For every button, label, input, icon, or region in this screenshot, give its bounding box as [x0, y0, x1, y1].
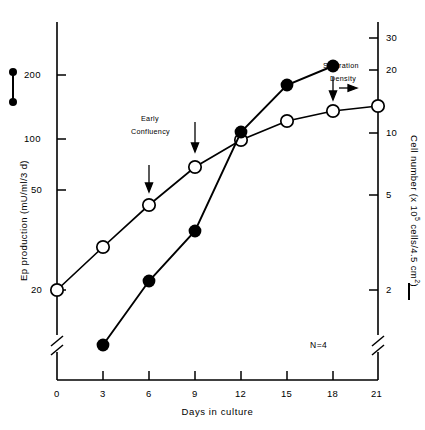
- early-confluency-arrow-day6-icon: [145, 165, 152, 192]
- early-confluency-label-line1: Early: [141, 113, 159, 124]
- series-cell-number: [51, 100, 384, 296]
- left-tick-label-50: 50: [31, 184, 42, 195]
- right-axis-title-suffix: ): [409, 283, 420, 287]
- legend-dot-top: [9, 68, 17, 76]
- right-axis-title-prefix: Cell number (x 10: [409, 135, 420, 217]
- left-tick-label-200: 200: [24, 69, 41, 80]
- x-axis-ticks: [103, 371, 333, 380]
- data-point-filled: [97, 339, 110, 352]
- chart-plot-area: [0, 0, 425, 430]
- right-axis-ticks: [369, 38, 378, 290]
- right-axis-title-middle: cells/4.5 cm: [409, 221, 420, 279]
- left-tick-label-100: 100: [24, 133, 41, 144]
- x-tick-label-12: 12: [235, 388, 246, 399]
- saturation-density-arrow-right-icon: [339, 85, 357, 92]
- legend-marker-ep-production: [9, 68, 17, 106]
- series-cell-number-line: [57, 106, 378, 290]
- left-axis-break-slash-1: [51, 336, 63, 346]
- right-tick-label-20: 20: [386, 64, 397, 75]
- data-point-filled: [235, 126, 248, 139]
- left-axis-ticks: [57, 75, 66, 290]
- chart-figure: Ep production (mU/ml/3 d) Cell number (x…: [0, 0, 425, 430]
- series-ep-production: [97, 60, 340, 352]
- left-tick-label-20: 20: [31, 284, 42, 295]
- data-point-filled: [189, 225, 202, 238]
- right-tick-label-10: 10: [386, 127, 397, 138]
- right-tick-label-5: 5: [386, 189, 392, 200]
- x-tick-label-21: 21: [371, 388, 382, 399]
- x-tick-label-0: 0: [54, 388, 60, 399]
- legend-dot-bottom: [9, 98, 17, 106]
- x-tick-label-6: 6: [146, 388, 152, 399]
- right-tick-label-2: 2: [386, 284, 392, 295]
- data-point-open: [97, 241, 109, 253]
- data-point-open: [51, 284, 63, 296]
- data-point-filled: [143, 275, 156, 288]
- data-point-open: [143, 199, 155, 211]
- early-confluency-arrow-day9-icon: [191, 122, 198, 152]
- x-tick-label-3: 3: [100, 388, 106, 399]
- data-point-open: [372, 100, 384, 112]
- right-axis-title: Cell number (x 105 cells/4.5 cm2): [409, 86, 421, 336]
- x-tick-label-15: 15: [281, 388, 292, 399]
- right-tick-label-30: 30: [386, 32, 397, 43]
- data-point-open: [189, 161, 201, 173]
- series-ep-production-line: [103, 66, 333, 345]
- saturation-density-label-line2: Density: [330, 73, 356, 84]
- x-tick-label-18: 18: [327, 388, 338, 399]
- x-axis-title: Days in culture: [57, 406, 378, 417]
- data-point-open: [327, 105, 339, 117]
- data-point-open: [281, 115, 293, 127]
- sample-size-note: N=4: [310, 340, 327, 350]
- data-point-filled: [281, 79, 294, 92]
- right-axis-break-slash-1: [372, 336, 384, 346]
- early-confluency-label-line2: Confluency: [131, 126, 170, 137]
- x-tick-label-9: 9: [192, 388, 198, 399]
- annotation-arrows: [145, 77, 357, 192]
- saturation-density-label-line1: Saturation: [323, 60, 359, 71]
